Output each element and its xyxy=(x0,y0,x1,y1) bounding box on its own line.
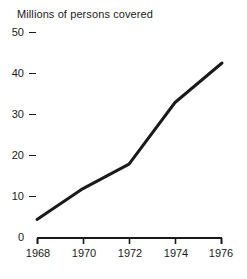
chart-container: Millions of persons covered 50 40 30 20 … xyxy=(0,0,247,279)
x-axis-label-1970: 1970 xyxy=(72,247,96,260)
x-axis-label-1972: 1972 xyxy=(118,247,142,260)
x-axis-label-1976: 1976 xyxy=(209,247,233,260)
plot-area xyxy=(0,0,247,279)
x-axis-label-1974: 1974 xyxy=(164,247,188,260)
x-axis-label-1968: 1968 xyxy=(26,247,50,260)
data-series-line xyxy=(37,63,222,220)
